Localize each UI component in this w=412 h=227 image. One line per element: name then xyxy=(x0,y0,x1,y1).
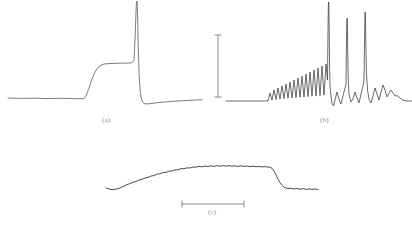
panel-b-plot xyxy=(206,0,412,118)
trace-c xyxy=(106,166,318,190)
panel-a-plot xyxy=(0,0,206,118)
panel-c-label: (c) xyxy=(208,208,216,216)
trace-a xyxy=(8,1,202,104)
panel-c xyxy=(98,133,322,205)
figure-root: (a) (b) (c) xyxy=(0,0,412,227)
panel-c-plot xyxy=(98,133,322,205)
trace-b xyxy=(226,2,412,106)
panel-a-label: (a) xyxy=(102,116,110,124)
panel-b-label: (b) xyxy=(320,116,329,124)
panel-b-scalebar xyxy=(215,35,222,97)
panel-a xyxy=(0,0,206,118)
panel-b xyxy=(206,0,412,118)
